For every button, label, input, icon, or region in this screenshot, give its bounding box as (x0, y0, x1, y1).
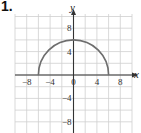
y-axis-label: y (69, 1, 75, 13)
y-tick-label: 4 (67, 47, 72, 57)
y-tick-label: −8 (62, 117, 72, 127)
axes (15, 9, 138, 133)
x-tick-label: 0 (71, 77, 76, 87)
x-axis-label: x (133, 68, 139, 80)
x-tick-label: 4 (95, 77, 100, 87)
y-tick-label: 8 (67, 23, 72, 33)
x-tick-label: −8 (22, 77, 32, 87)
x-tick-label: −4 (45, 77, 55, 87)
x-tick-label: 8 (118, 77, 123, 87)
y-tick-label: −4 (62, 93, 72, 103)
coordinate-plot: −8−404884−4−8 x y (0, 0, 141, 133)
